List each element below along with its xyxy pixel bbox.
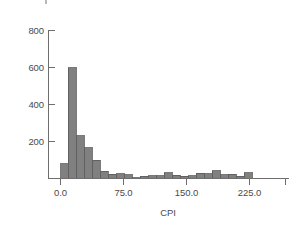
histogram-bar [84, 148, 92, 179]
y-tick-label-600: 600 [28, 62, 44, 73]
histogram-bar [61, 164, 69, 179]
y-axis: 800 600 400 200 [28, 25, 54, 178]
x-axis-title: CPI [160, 207, 176, 218]
histogram-bar [68, 68, 76, 179]
x-tick-label-75: 75.0 [114, 187, 132, 198]
y-tick-label-400: 400 [28, 99, 44, 110]
histogram-bar [164, 173, 172, 179]
histogram-bar [244, 173, 252, 179]
x-tick-label-150: 150.0 [175, 187, 198, 198]
y-tick-label-200: 200 [28, 136, 44, 147]
clipped-top-label-fragment [45, 0, 47, 4]
histogram-bar [196, 173, 204, 178]
histogram-bar [100, 171, 108, 178]
chart-figure: 800 600 400 200 0.0 75.0 150.0 225.0 CPI [0, 0, 308, 228]
histogram-bar [76, 136, 84, 179]
x-tick-label-0: 0.0 [54, 187, 67, 198]
histogram-bar [212, 171, 220, 179]
histogram-bars [61, 68, 253, 179]
histogram-plot: 800 600 400 200 0.0 75.0 150.0 225.0 CPI [0, 0, 308, 228]
histogram-bar [92, 160, 100, 179]
y-tick-label-800: 800 [28, 25, 44, 36]
histogram-bar [228, 174, 236, 178]
histogram-bar [220, 175, 228, 179]
x-axis: 0.0 75.0 150.0 225.0 [48, 179, 289, 199]
histogram-bar [124, 175, 132, 179]
x-tick-label-225: 225.0 [238, 187, 261, 198]
histogram-bar [116, 174, 124, 179]
histogram-bar [108, 174, 116, 178]
histogram-bar [204, 174, 212, 179]
